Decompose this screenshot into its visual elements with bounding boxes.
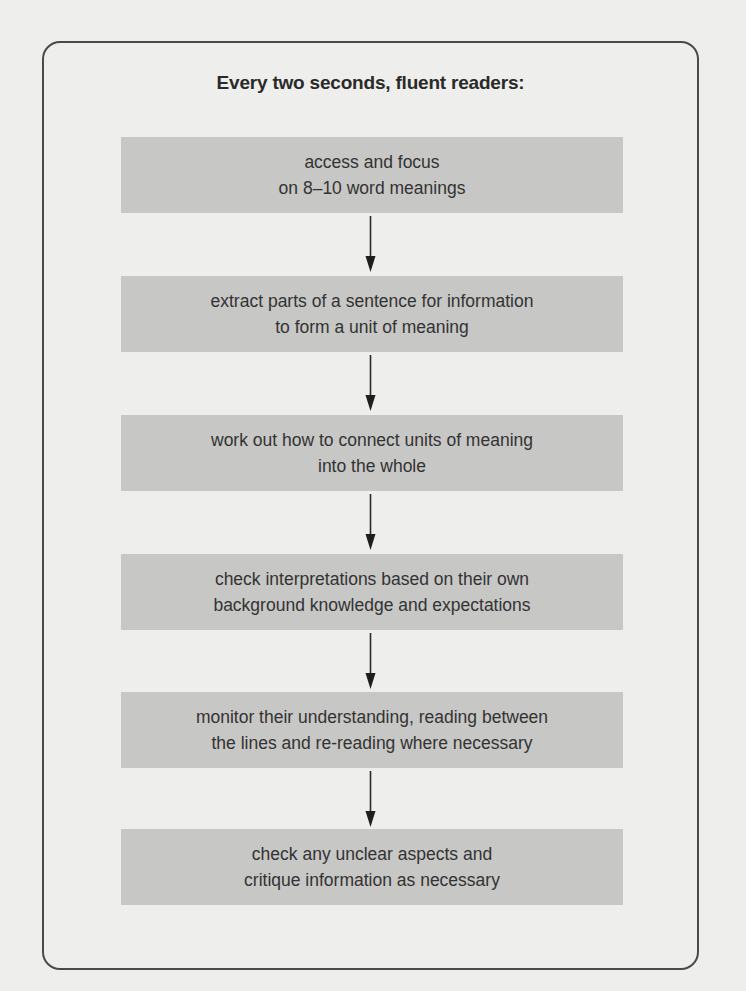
- step-4-line-1: check interpretations based on their own: [215, 566, 529, 592]
- step-3-line-2: into the whole: [318, 453, 426, 479]
- step-5-line-1: monitor their understanding, reading bet…: [196, 704, 548, 730]
- step-box-2: extract parts of a sentence for informat…: [121, 276, 623, 352]
- step-box-1: access and focus on 8–10 word meanings: [121, 137, 623, 213]
- step-1-line-1: access and focus: [304, 149, 439, 175]
- diagram-title: Every two seconds, fluent readers:: [42, 72, 699, 94]
- step-6-line-1: check any unclear aspects and: [252, 841, 492, 867]
- step-box-4: check interpretations based on their own…: [121, 554, 623, 630]
- step-3-line-1: work out how to connect units of meaning: [211, 427, 533, 453]
- step-box-5: monitor their understanding, reading bet…: [121, 692, 623, 768]
- step-2-line-1: extract parts of a sentence for informat…: [211, 288, 534, 314]
- step-2-line-2: to form a unit of meaning: [275, 314, 469, 340]
- step-4-line-2: background knowledge and expectations: [213, 592, 530, 618]
- step-6-line-2: critique information as necessary: [244, 867, 500, 893]
- step-5-line-2: the lines and re-reading where necessary: [211, 730, 532, 756]
- down-arrow-icon: [365, 633, 376, 689]
- down-arrow-icon: [365, 216, 376, 272]
- step-box-6: check any unclear aspects and critique i…: [121, 829, 623, 905]
- step-1-line-2: on 8–10 word meanings: [279, 175, 466, 201]
- down-arrow-icon: [365, 355, 376, 411]
- down-arrow-icon: [365, 771, 376, 827]
- down-arrow-icon: [365, 494, 376, 550]
- step-box-3: work out how to connect units of meaning…: [121, 415, 623, 491]
